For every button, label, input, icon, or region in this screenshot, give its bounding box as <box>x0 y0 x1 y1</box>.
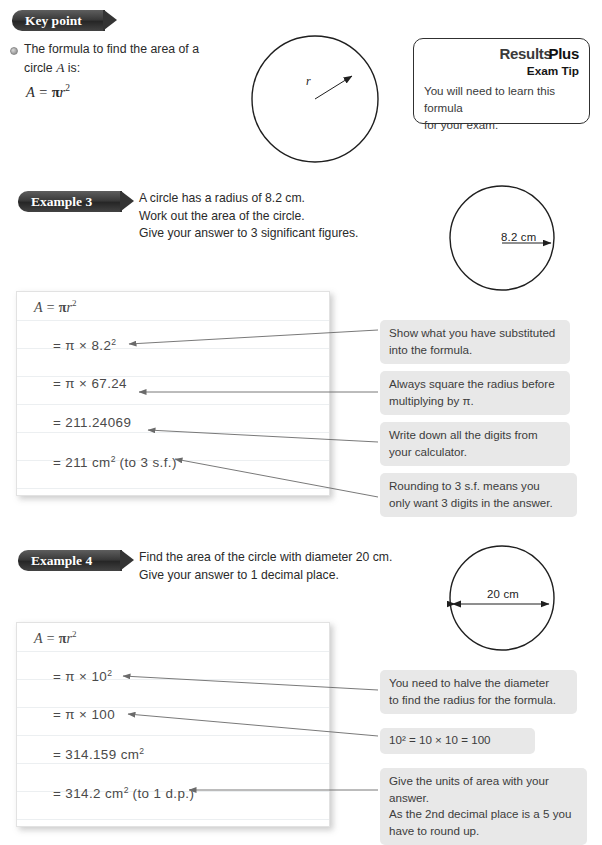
key-point-text: The formula to find the area of a circle… <box>24 41 224 77</box>
example-3-prompt-line1: A circle has a radius of 8.2 cm. <box>139 191 305 205</box>
example-4-note-1: You need to halve the diameter to find t… <box>380 670 577 714</box>
e3-note4-line2: only want 3 digits in the answer. <box>389 496 553 509</box>
example-3-solution-line-3: = 211.24069 <box>53 415 131 430</box>
results-plus-body-line1: You will need to learn this formula <box>424 84 555 114</box>
e3-note3-line2: your calculator. <box>389 445 467 458</box>
e3-note4-line1: Rounding to 3 s.f. means you <box>389 479 540 492</box>
e4-line4-post: (to 1 d.p.) <box>128 786 194 801</box>
e4-note1-line1: You need to halve the diameter <box>389 676 549 689</box>
e3-note1-line2: into the formula. <box>389 343 472 356</box>
example-3-badge: Example 3 <box>18 191 121 212</box>
key-point-formula: A = πr2 <box>26 83 70 101</box>
example-3-solution-box: A = πr2 = π × 8.22 = π × 67.24 = 211.240… <box>16 291 330 496</box>
example-4-note-3: Give the units of area with your answer.… <box>380 768 587 845</box>
example-4-diameter-label: 20 cm <box>487 588 519 600</box>
e3-note2-line2: multiplying by π. <box>389 394 474 407</box>
e3-line1-text: = π × 8.2 <box>53 338 111 353</box>
formula-pi: π <box>52 84 60 100</box>
example-3-note-2: Always square the radius before multiply… <box>380 371 570 415</box>
results-plus-body: You will need to learn this formula for … <box>424 82 584 133</box>
example-3-prompt: A circle has a radius of 8.2 cm. Work ou… <box>139 190 358 243</box>
e4-note2-line1: 10² = 10 × 10 = 100 <box>389 733 491 746</box>
e4-head-exp: 2 <box>72 629 77 639</box>
e4-line4-pre: = 314.2 cm <box>53 786 124 801</box>
example-3-solution-line-1: = π × 8.22 <box>53 337 116 353</box>
e3-note1-line1: Show what you have substituted <box>389 326 555 339</box>
e3-line4-post: (to 3 s.f.) <box>115 455 176 470</box>
example-4-solution-line-3: = 314.159 cm2 <box>53 746 144 762</box>
example-4-note-2: 10² = 10 × 10 = 100 <box>380 728 535 754</box>
e4-line1-exp: 2 <box>107 668 112 678</box>
results-plus-subtitle: Exam Tip <box>527 64 579 78</box>
e4-line1-text: = π × 10 <box>53 669 107 684</box>
e3-line1-exp: 2 <box>111 337 116 347</box>
example-4-prompt-line2: Give your answer to 1 decimal place. <box>139 568 339 582</box>
key-point-badge: Key point <box>12 10 104 31</box>
example-4-solution-line-2: = π × 100 <box>53 707 115 722</box>
results-plus-title-results: Results <box>499 45 551 62</box>
example-4-prompt-line1: Find the area of the circle with diamete… <box>139 550 392 564</box>
example-4-prompt: Find the area of the circle with diamete… <box>139 549 392 584</box>
e3-note3-line1: Write down all the digits from <box>389 428 538 441</box>
e4-head-eq: = <box>46 631 55 646</box>
example-3-solution-line-4: = 211 cm2 (to 3 s.f.) <box>53 454 177 470</box>
e4-note3-line3: have to round up. <box>389 824 479 837</box>
results-plus-title-plus: Plus <box>549 45 579 62</box>
e3-head-A: A <box>34 300 42 315</box>
keypoint-radius-label: r <box>306 74 311 89</box>
formula-equals: = <box>38 84 48 100</box>
formula-exponent: 2 <box>65 83 70 93</box>
formula-A: A <box>26 84 35 100</box>
key-point-line2-pre: circle <box>24 61 56 75</box>
example-3-prompt-line3: Give your answer to 3 significant figure… <box>139 226 358 240</box>
results-plus-body-line2: for your exam. <box>424 118 498 131</box>
example-3-note-1: Show what you have substituted into the … <box>380 320 570 364</box>
example-4-solution-line-1: = π × 102 <box>53 668 112 684</box>
example-4-solution-head: A = πr2 <box>34 629 76 647</box>
e4-line3-exp: 2 <box>139 746 144 756</box>
e4-note3-line1: Give the units of area with your answer. <box>389 774 549 804</box>
example-4-solution-line-4: = 314.2 cm2 (to 1 d.p.) <box>53 785 194 801</box>
bullet-icon <box>10 47 18 55</box>
e3-head-eq: = <box>46 300 55 315</box>
e4-note1-line2: to find the radius for the formula. <box>389 693 556 706</box>
key-point-line2-post: is: <box>64 61 80 75</box>
example-3-solution-line-2: = π × 67.24 <box>53 376 127 391</box>
key-point-line1: The formula to find the area of a <box>24 42 199 56</box>
example-4-badge: Example 4 <box>18 550 121 571</box>
example-3-prompt-line2: Work out the area of the circle. <box>139 209 305 223</box>
example-3-solution-head: A = πr2 <box>34 298 76 316</box>
e3-head-exp: 2 <box>72 298 77 308</box>
keypoint-circle-diagram <box>252 36 378 162</box>
e3-line4-pre: = 211 cm <box>53 455 111 470</box>
example-3-note-3: Write down all the digits from your calc… <box>380 422 570 466</box>
key-point-badge-label: Key point <box>25 13 82 28</box>
e4-line3-pre: = 314.159 cm <box>53 747 139 762</box>
example-3-badge-label: Example 3 <box>31 194 92 209</box>
results-plus-box: ResultsPlus Exam Tip You will need to le… <box>413 38 590 124</box>
example-4-solution-box: A = πr2 = π × 102 = π × 100 = 314.159 cm… <box>16 622 330 827</box>
results-plus-title: ResultsPlus <box>499 45 579 62</box>
example-3-radius-label: 8.2 cm <box>501 231 536 243</box>
e4-note3-line2: As the 2nd decimal place is a 5 you <box>389 807 571 820</box>
example-4-badge-label: Example 4 <box>31 553 92 568</box>
e3-note2-line1: Always square the radius before <box>389 377 555 390</box>
e4-head-A: A <box>34 631 42 646</box>
example-3-note-4: Rounding to 3 s.f. means you only want 3… <box>380 473 577 517</box>
